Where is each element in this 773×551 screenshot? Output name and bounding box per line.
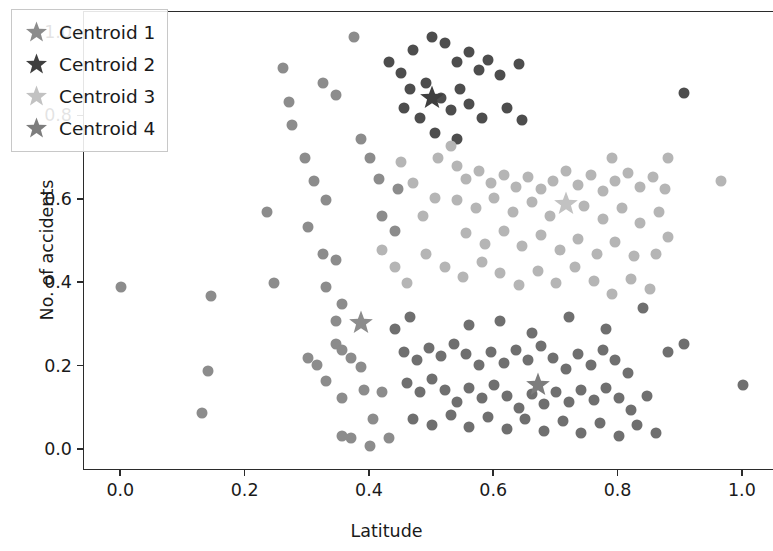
data-point [458, 271, 469, 282]
data-point [405, 84, 416, 95]
data-point [336, 392, 347, 403]
chart-legend: Centroid 1Centroid 2Centroid 3Centroid 4 [11, 9, 168, 152]
plot-area [83, 11, 773, 470]
data-point [346, 353, 357, 364]
data-point [579, 201, 590, 212]
data-point [476, 257, 487, 268]
data-point [408, 44, 419, 55]
data-point [635, 217, 646, 228]
data-point [476, 392, 487, 403]
x-tick-mark [492, 470, 494, 476]
star-icon [21, 21, 51, 44]
data-point [309, 175, 320, 186]
data-point [629, 251, 640, 262]
data-point [420, 249, 431, 260]
data-point [539, 399, 550, 410]
data-point [439, 261, 450, 272]
data-point [570, 261, 581, 272]
data-point [116, 282, 127, 293]
data-point [517, 240, 528, 251]
data-point [622, 367, 633, 378]
data-point [396, 67, 407, 78]
data-point [321, 194, 332, 205]
data-point [626, 405, 637, 416]
data-point [405, 311, 416, 322]
data-point [514, 59, 525, 70]
data-point [464, 46, 475, 57]
y-tick-label: 0.0 [20, 439, 72, 459]
data-point [622, 167, 633, 178]
data-point [548, 175, 559, 186]
data-point [607, 288, 618, 299]
data-point [451, 57, 462, 68]
data-point [632, 420, 643, 431]
data-point [576, 428, 587, 439]
data-point [610, 355, 621, 366]
data-point [501, 390, 512, 401]
data-point [647, 171, 658, 182]
data-point [526, 328, 537, 339]
data-point [312, 359, 323, 370]
data-point [364, 440, 375, 451]
data-point [573, 349, 584, 360]
legend-entry: Centroid 1 [21, 16, 155, 48]
data-point [554, 244, 565, 255]
data-point [433, 153, 444, 164]
data-point [486, 347, 497, 358]
data-point [336, 299, 347, 310]
y-tick-mark [77, 365, 83, 367]
data-point [495, 267, 506, 278]
data-point [594, 418, 605, 429]
data-point [523, 355, 534, 366]
data-point [206, 290, 217, 301]
data-point [532, 265, 543, 276]
data-point [563, 311, 574, 322]
x-tick-label: 0.6 [479, 480, 507, 500]
star-icon [21, 53, 51, 76]
data-point [573, 180, 584, 191]
data-point [598, 213, 609, 224]
data-point [610, 236, 621, 247]
data-point [445, 105, 456, 116]
data-point [399, 102, 410, 113]
data-point [517, 115, 528, 126]
x-axis-label: Latitude [0, 521, 773, 541]
data-point [383, 432, 394, 443]
data-point [601, 382, 612, 393]
data-point [377, 386, 388, 397]
data-point [539, 426, 550, 437]
data-point [535, 230, 546, 241]
data-point [473, 165, 484, 176]
data-point [417, 211, 428, 222]
data-point [486, 178, 497, 189]
data-point [439, 38, 450, 49]
data-point [358, 384, 369, 395]
data-point [511, 344, 522, 355]
scatter-chart-figure: 0.00.20.40.60.81.00.00.20.40.60.81.0 Cen… [0, 0, 773, 551]
data-point [548, 353, 559, 364]
x-tick-label: 0.2 [231, 480, 259, 500]
data-point [613, 430, 624, 441]
data-point [489, 192, 500, 203]
data-point [374, 173, 385, 184]
data-point [389, 324, 400, 335]
data-point [461, 173, 472, 184]
data-point [364, 153, 375, 164]
x-tick-label: 1.0 [728, 480, 756, 500]
data-point [473, 65, 484, 76]
data-point [330, 315, 341, 326]
data-point [535, 340, 546, 351]
data-point [616, 203, 627, 214]
data-point [479, 238, 490, 249]
data-point [498, 169, 509, 180]
data-point [402, 278, 413, 289]
data-point [287, 119, 298, 130]
data-point [336, 344, 347, 355]
x-tick-label: 0.8 [604, 480, 632, 500]
legend-label: Centroid 4 [59, 118, 155, 139]
x-tick-mark [119, 470, 121, 476]
data-point [601, 324, 612, 335]
data-point [355, 134, 366, 145]
data-point [644, 284, 655, 295]
data-point [411, 355, 422, 366]
